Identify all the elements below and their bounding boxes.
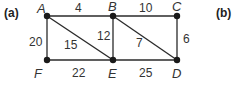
- edge-weight-BD: 7: [136, 36, 143, 50]
- edge-weight-CD: 6: [183, 32, 190, 46]
- edge-weight-AB: 4: [75, 1, 82, 15]
- node-D: [174, 57, 180, 63]
- edge-weight-FE: 22: [72, 66, 86, 80]
- panel-label-b: (b): [216, 6, 231, 20]
- edge-BD: [113, 16, 177, 60]
- panel-label-a: (a): [4, 6, 19, 20]
- weighted-graph-diagram: 410201512762225 ABCDEF (a)(b): [0, 0, 240, 97]
- node-label-E: E: [108, 66, 117, 81]
- edge-weight-ED: 25: [139, 66, 153, 80]
- edge-weight-BC: 10: [139, 1, 153, 15]
- node-label-F: F: [34, 66, 43, 81]
- edge-weight-BE: 12: [97, 29, 111, 43]
- node-label-C: C: [172, 0, 182, 14]
- node-E: [110, 57, 116, 63]
- node-label-A: A: [36, 1, 46, 16]
- edge-weight-AF: 20: [29, 35, 43, 49]
- edge-weight-AE: 15: [64, 38, 78, 52]
- node-F: [44, 57, 50, 63]
- node-label-B: B: [108, 0, 117, 14]
- node-label-D: D: [172, 66, 181, 81]
